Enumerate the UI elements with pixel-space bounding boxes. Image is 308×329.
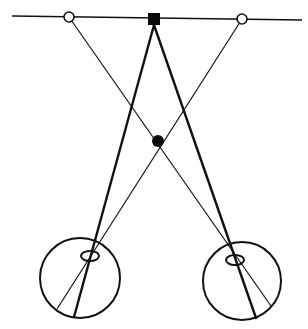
left-eye-globe bbox=[40, 238, 120, 318]
right-circle-to-left-eye-ray bbox=[57, 19, 242, 309]
left-eye-visual-axis bbox=[74, 25, 154, 317]
diagram-svg bbox=[0, 0, 308, 329]
near-filled-dot-target bbox=[152, 135, 164, 147]
fixation-square-target bbox=[148, 13, 160, 25]
left-open-circle-target bbox=[64, 12, 74, 22]
binocular-diagram bbox=[0, 0, 308, 329]
right-eye-visual-axis bbox=[154, 25, 256, 318]
right-open-circle-target bbox=[237, 14, 247, 24]
left-circle-to-right-eye-ray bbox=[69, 17, 271, 306]
